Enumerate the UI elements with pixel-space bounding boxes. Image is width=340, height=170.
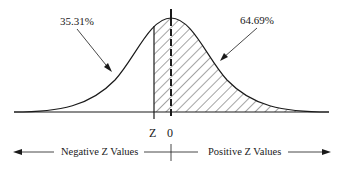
left-pointer-arrow (77, 29, 110, 70)
normal-curve-diagram (0, 0, 340, 170)
z-marker-label: Z (149, 127, 156, 139)
right-area-percent: 64.69% (240, 14, 274, 26)
left-arrowhead-icon (13, 149, 22, 155)
right-pointer-arrow (223, 28, 257, 58)
left-area-percent: 35.31% (60, 15, 94, 27)
zero-marker-label: 0 (167, 127, 173, 139)
negative-z-label: Negative Z Values (61, 146, 138, 158)
positive-z-label: Positive Z Values (208, 146, 281, 158)
right-arrowhead-icon (322, 149, 331, 155)
